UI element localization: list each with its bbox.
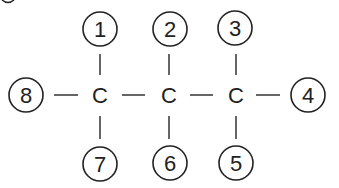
structural-diagram: C C C 1 2 3 4 5 6 7 bbox=[0, 0, 339, 188]
position-label: 6 bbox=[164, 151, 176, 176]
position-label: 5 bbox=[230, 151, 242, 176]
position-3: 3 bbox=[218, 11, 252, 45]
carbon-2: C bbox=[161, 83, 177, 108]
position-5: 5 bbox=[219, 146, 253, 180]
position-label: 3 bbox=[229, 16, 241, 41]
carbon-3: C bbox=[228, 83, 244, 108]
carbon-atoms: C C C bbox=[92, 83, 244, 108]
position-label: 4 bbox=[302, 83, 314, 108]
position-6: 6 bbox=[153, 146, 187, 180]
position-label: 7 bbox=[94, 152, 106, 177]
cropped-glyph-fragment bbox=[2, 0, 14, 3]
position-label: 1 bbox=[94, 17, 106, 42]
position-8: 8 bbox=[9, 78, 43, 112]
position-1: 1 bbox=[83, 12, 117, 46]
position-label: 8 bbox=[20, 83, 32, 108]
position-7: 7 bbox=[83, 147, 117, 181]
position-4: 4 bbox=[291, 78, 325, 112]
position-2: 2 bbox=[153, 12, 187, 46]
position-label: 2 bbox=[164, 17, 176, 42]
carbon-1: C bbox=[92, 83, 108, 108]
